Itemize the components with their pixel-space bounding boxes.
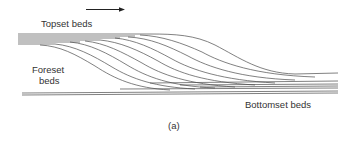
foreset-beds-label-line2: beds	[39, 75, 60, 86]
flow-direction-arrow-icon	[86, 7, 125, 11]
foreset-beds-label-line1: Foreset	[32, 64, 64, 75]
figure-caption: (a)	[168, 120, 180, 131]
bottomset-beds-label: Bottomset beds	[245, 99, 311, 110]
topset-beds-label: Topset beds	[41, 18, 92, 29]
topset-beds-lines	[18, 34, 338, 74]
